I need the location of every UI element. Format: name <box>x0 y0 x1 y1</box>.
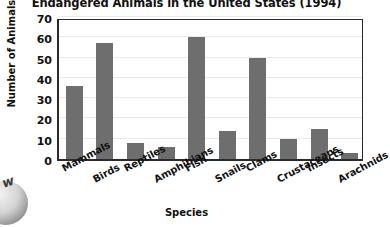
y-tick-label: 40 <box>0 74 52 85</box>
y-tick-label: 60 <box>0 34 52 45</box>
y-tick-label: 0 <box>0 156 52 167</box>
bar <box>219 131 236 159</box>
chart-title: Endangered Animals in the United States … <box>0 0 373 10</box>
gridline <box>59 16 362 17</box>
x-tick-label: Birds <box>91 162 121 185</box>
y-tick-label: 50 <box>0 54 52 65</box>
y-tick-label: 30 <box>0 95 52 106</box>
y-axis-tick-labels: 010203040506070 <box>0 19 52 161</box>
y-tick-label: 20 <box>0 115 52 126</box>
bar <box>66 86 83 159</box>
bar-series <box>59 20 362 159</box>
y-tick-label: 70 <box>0 14 52 25</box>
bar <box>188 37 205 159</box>
bar <box>249 58 266 159</box>
x-axis-title: Species <box>0 207 373 218</box>
bar <box>280 139 297 159</box>
x-axis-tick-labels: MammalsBirdsReptilesAmphibiansFishSnails… <box>57 161 363 207</box>
y-tick-label: 10 <box>0 135 52 146</box>
x-tick-label: Snails <box>213 159 248 184</box>
